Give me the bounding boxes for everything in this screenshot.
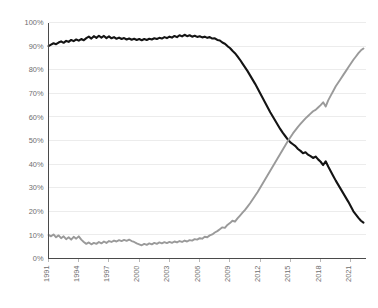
y-axis-tick-label: 70% [29,89,44,98]
x-axis-tick-label: 2015 [283,266,292,282]
y-axis-tick-label: 40% [29,160,44,169]
x-axis-tick-label: 1991 [42,266,51,282]
x-axis-tick-label: 2012 [253,266,262,282]
y-axis-tick-label: 0% [33,254,44,263]
x-axis-tick-label: 2000 [132,266,141,282]
y-axis-tick-label: 50% [29,136,44,145]
y-axis-tick-label: 10% [29,231,44,240]
x-axis-tick-label: 2009 [223,266,232,282]
x-axis-tick-label: 2021 [344,266,353,282]
y-axis-tick-label: 60% [29,113,44,122]
x-axis-tick-label: 1994 [72,266,81,282]
y-axis-tick-label: 90% [29,42,44,51]
x-axis-tick-label: 1997 [102,266,111,282]
y-axis-tick-label: 30% [29,183,44,192]
chart-container: 0%10%20%30%40%50%60%70%80%90%100% 199119… [0,0,378,308]
y-axis-tick-label: 100% [25,18,44,27]
line-chart: 0%10%20%30%40%50%60%70%80%90%100% 199119… [0,0,378,308]
x-axis-tick-label: 2003 [162,266,171,282]
y-axis-tick-label: 80% [29,65,44,74]
y-axis-tick-label: 20% [29,207,44,216]
x-axis-tick-label: 2018 [314,266,323,282]
x-axis-tick-label: 2006 [193,266,202,282]
